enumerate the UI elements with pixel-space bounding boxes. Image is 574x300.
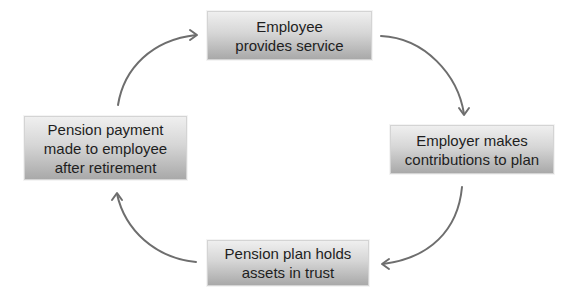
node-label: Employee provides service: [235, 17, 343, 55]
node-label: Pension payment made to employee after r…: [44, 120, 167, 177]
arrow-bottom-to-left: [112, 193, 196, 262]
arrow-right-to-bottom: [382, 187, 462, 269]
arrow-left-to-top: [118, 30, 197, 105]
node-label: Pension plan holds assets in trust: [225, 244, 352, 282]
node-pension-plan-holds-assets: Pension plan holds assets in trust: [207, 240, 369, 286]
node-employee-provides-service: Employee provides service: [207, 11, 372, 60]
node-employer-makes-contributions: Employer makes contributions to plan: [390, 125, 554, 174]
node-label: Employer makes contributions to plan: [405, 131, 539, 169]
arrow-top-to-right: [381, 36, 469, 115]
node-pension-payment-after-retirement: Pension payment made to employee after r…: [24, 116, 187, 180]
pension-cycle-diagram: Employee provides service Employer makes…: [0, 0, 574, 300]
